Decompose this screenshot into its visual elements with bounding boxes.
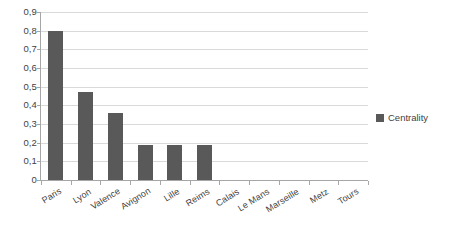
bar-group — [41, 12, 368, 180]
bar-slot — [41, 12, 71, 180]
y-axis-tick-mark — [37, 87, 41, 88]
x-axis-label-marseille: Marseille — [264, 186, 301, 214]
bar-slot — [219, 12, 249, 180]
x-axis-tick-mark — [368, 181, 369, 185]
bar-reims[interactable] — [197, 145, 212, 180]
y-axis-tick-label: 0 — [0, 175, 37, 185]
plot-area — [41, 12, 368, 180]
bar-lyon[interactable] — [78, 92, 93, 180]
y-axis-tick-label: 0,8 — [0, 26, 37, 36]
y-axis-tick-label: 0,5 — [0, 82, 37, 92]
bar-valence[interactable] — [108, 113, 123, 180]
bar-paris[interactable] — [48, 31, 63, 180]
bar-chart: 00,10,20,30,40,50,60,70,80,9 ParisLyonVa… — [0, 0, 455, 229]
y-axis-tick-mark — [37, 161, 41, 162]
y-axis-tick-label: 0,9 — [0, 7, 37, 17]
bar-slot — [249, 12, 279, 180]
y-axis-tick-mark — [37, 49, 41, 50]
x-axis-label-metz: Metz — [308, 186, 330, 205]
y-axis-tick-mark — [37, 68, 41, 69]
bar-slot — [160, 12, 190, 180]
y-axis-tick-label: 0,1 — [0, 156, 37, 166]
chart-legend: Centrality — [376, 113, 428, 123]
bar-avignon[interactable] — [138, 145, 153, 180]
y-axis-tick-mark — [37, 105, 41, 106]
legend-label-centrality: Centrality — [388, 113, 428, 123]
x-axis-label-group: ParisLyonValenceAvignonLilleReimsCalaisL… — [41, 181, 368, 229]
y-axis-tick-label: 0,7 — [0, 44, 37, 54]
bar-slot — [71, 12, 101, 180]
y-axis-tick-mark — [37, 12, 41, 13]
bar-slot — [279, 12, 309, 180]
bar-slot — [130, 12, 160, 180]
y-axis-label-group: 00,10,20,30,40,50,60,70,80,9 — [0, 0, 37, 229]
x-axis-label-lille: Lille — [162, 186, 181, 203]
bar-slot — [309, 12, 339, 180]
bar-slot — [100, 12, 130, 180]
y-axis-tick-mark — [37, 143, 41, 144]
x-axis-label-tours: Tours — [336, 186, 360, 206]
bar-slot — [338, 12, 368, 180]
y-axis-tick-label: 0,4 — [0, 100, 37, 110]
bar-lille[interactable] — [167, 145, 182, 180]
x-axis-label-reims: Reims — [184, 186, 211, 208]
y-axis-tick-mark — [37, 180, 41, 181]
legend-swatch-centrality — [376, 114, 384, 122]
bar-slot — [190, 12, 220, 180]
x-axis-label-valence: Valence — [89, 186, 122, 212]
y-axis-tick-label: 0,2 — [0, 138, 37, 148]
y-axis-tick-label: 0,3 — [0, 119, 37, 129]
y-axis-tick-mark — [37, 124, 41, 125]
x-axis-label-avignon: Avignon — [119, 186, 152, 212]
y-axis-tick-label: 0,6 — [0, 63, 37, 73]
x-axis-label-paris: Paris — [40, 186, 63, 206]
y-axis-tick-mark — [37, 31, 41, 32]
